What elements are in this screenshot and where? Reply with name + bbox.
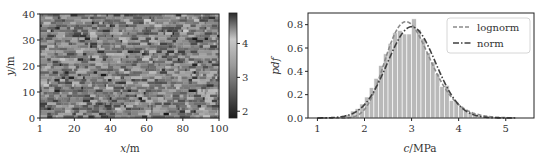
- histogram-bar: [379, 66, 384, 119]
- histogram-bar: [449, 101, 454, 119]
- svg-text:40: 40: [22, 9, 35, 20]
- histogram-bar: [426, 53, 431, 118]
- svg-text:2: 2: [361, 123, 367, 134]
- histogram-x-axis: 12345: [314, 118, 509, 134]
- svg-text:10: 10: [22, 87, 35, 98]
- histogram-y-axis: 0.00.20.40.60.8: [287, 19, 308, 123]
- histogram-y-label: pdf: [269, 55, 281, 74]
- svg-text:60: 60: [140, 123, 153, 134]
- svg-text:5: 5: [503, 123, 509, 134]
- colorbar-ticks: 234: [237, 38, 248, 117]
- heatmap-panel: 120406080100 010203040 x/m y/m: [4, 9, 229, 155]
- histogram-bar: [416, 29, 421, 118]
- legend: lognorm norm: [447, 18, 530, 53]
- histogram-bar: [407, 34, 412, 118]
- colorbar: 234: [229, 13, 248, 118]
- svg-text:3: 3: [408, 123, 414, 134]
- heatmap-cells: [40, 14, 219, 118]
- histogram-bar: [440, 87, 445, 119]
- svg-text:20: 20: [22, 61, 35, 72]
- svg-text:1: 1: [314, 123, 320, 134]
- heatmap-y-label: y/m: [4, 56, 16, 76]
- svg-text:30: 30: [22, 35, 35, 46]
- svg-text:0.8: 0.8: [287, 19, 303, 30]
- figure: 120406080100 010203040 x/m y/m 234: [0, 0, 540, 157]
- svg-text:0.2: 0.2: [287, 89, 303, 100]
- svg-text:0.0: 0.0: [287, 113, 303, 124]
- svg-text:0: 0: [29, 113, 35, 124]
- svg-text:40: 40: [104, 123, 117, 134]
- svg-text:2: 2: [242, 106, 248, 117]
- histogram-bar: [412, 19, 417, 118]
- legend-norm-label: norm: [477, 38, 504, 49]
- histogram-bar: [374, 78, 379, 118]
- heatmap-x-axis: 120406080100: [37, 118, 229, 134]
- histogram-panel: 12345 0.00.20.40.60.8 c/MPa pdf lognorm …: [269, 13, 534, 154]
- histogram-x-label: c/MPa: [403, 142, 436, 154]
- svg-text:80: 80: [176, 123, 189, 134]
- svg-text:100: 100: [209, 123, 228, 134]
- heatmap-x-label: x/m: [120, 142, 139, 154]
- svg-text:20: 20: [68, 123, 81, 134]
- svg-text:0.4: 0.4: [287, 66, 303, 77]
- svg-text:4: 4: [455, 123, 461, 134]
- svg-text:1: 1: [37, 123, 43, 134]
- histogram-bar: [430, 62, 435, 118]
- figure-canvas: 120406080100 010203040 x/m y/m 234: [0, 0, 540, 157]
- histogram-bar: [397, 31, 402, 119]
- legend-lognorm-label: lognorm: [477, 22, 520, 33]
- histogram-bar: [421, 39, 426, 118]
- histogram-bar: [435, 74, 440, 118]
- svg-text:3: 3: [242, 72, 248, 83]
- histogram-bar: [402, 34, 407, 118]
- colorbar-gradient: [229, 13, 237, 118]
- heatmap-y-axis: 010203040: [22, 9, 40, 124]
- svg-text:4: 4: [242, 38, 248, 49]
- svg-text:0.6: 0.6: [287, 43, 303, 54]
